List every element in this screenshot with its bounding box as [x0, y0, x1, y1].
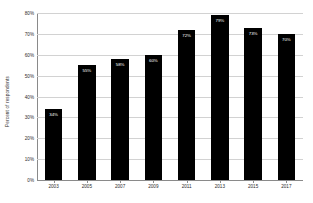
- x-axis-tick: [120, 181, 121, 183]
- bar-value-label: 72%: [178, 33, 195, 38]
- bar-value-label: 70%: [278, 37, 295, 42]
- y-axis-tick-label: 70%: [2, 31, 34, 36]
- y-axis-tick-label: 30%: [2, 115, 34, 120]
- x-axis-tick-label: 2017: [281, 184, 291, 189]
- y-axis-tick-label: 40%: [2, 94, 34, 99]
- bar-slot: 60%: [137, 13, 170, 180]
- bar-slot: 55%: [70, 13, 103, 180]
- x-axis-tick: [87, 181, 88, 183]
- y-axis-tick-label: 20%: [2, 136, 34, 141]
- x-axis-tick: [220, 181, 221, 183]
- x-axis-tick-label: 2005: [82, 184, 92, 189]
- x-axis-tick: [153, 181, 154, 183]
- bar[interactable]: 73%: [244, 28, 261, 180]
- y-axis-tick-label: 0%: [2, 178, 34, 183]
- bar-value-label: 73%: [244, 31, 261, 36]
- bar-value-label: 55%: [78, 68, 95, 73]
- x-axis-tick: [54, 181, 55, 183]
- bar[interactable]: 58%: [111, 59, 128, 180]
- bar-slot: 72%: [170, 13, 203, 180]
- bar[interactable]: 55%: [78, 65, 95, 180]
- bar-slot: 73%: [237, 13, 270, 180]
- x-axis-tick-label: 2003: [49, 184, 59, 189]
- y-axis-tick-label: 80%: [2, 11, 34, 16]
- x-axis-tick-labels: 20032005200720092011201320152017: [37, 181, 303, 197]
- bar[interactable]: 70%: [278, 34, 295, 180]
- bar-chart: Percent of respondents 0%10%20%30%40%50%…: [0, 0, 313, 203]
- x-axis-tick: [187, 181, 188, 183]
- x-axis-tick-label: 2009: [148, 184, 158, 189]
- bar[interactable]: 79%: [211, 15, 228, 180]
- bar-slot: 58%: [104, 13, 137, 180]
- bar[interactable]: 72%: [178, 30, 195, 180]
- x-axis-tick: [253, 181, 254, 183]
- bar[interactable]: 34%: [45, 109, 62, 180]
- bar-value-label: 58%: [111, 62, 128, 67]
- bar-value-label: 34%: [45, 112, 62, 117]
- bar-slot: 79%: [203, 13, 236, 180]
- bar[interactable]: 60%: [145, 55, 162, 180]
- bar-slot: 34%: [37, 13, 70, 180]
- y-axis-tick-label: 10%: [2, 157, 34, 162]
- bar-value-label: 60%: [145, 58, 162, 63]
- y-axis-tick-label: 50%: [2, 73, 34, 78]
- x-axis-tick-label: 2007: [115, 184, 125, 189]
- bar-value-label: 79%: [211, 18, 228, 23]
- y-axis-tick-label: 60%: [2, 52, 34, 57]
- bar-slot: 70%: [270, 13, 303, 180]
- x-axis-tick-label: 2015: [248, 184, 258, 189]
- bars-layer: 34%55%58%60%72%79%73%70%: [37, 13, 303, 180]
- x-axis-tick-label: 2011: [182, 184, 192, 189]
- y-axis-tick-labels: 0%10%20%30%40%50%60%70%80%: [0, 13, 34, 180]
- x-axis-tick: [286, 181, 287, 183]
- x-axis-tick-label: 2013: [215, 184, 225, 189]
